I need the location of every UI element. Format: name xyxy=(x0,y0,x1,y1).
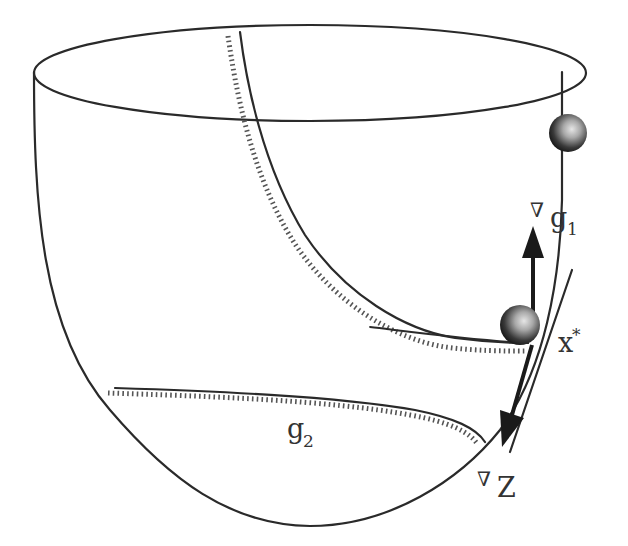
nabla-symbol: ∇ xyxy=(477,467,491,491)
ball-initial-position xyxy=(549,114,587,152)
nabla-symbol: ∇ xyxy=(530,198,544,222)
bowl-outline xyxy=(34,72,562,526)
label-x-star: x * xyxy=(558,325,581,358)
label-g2: g 2 xyxy=(287,413,314,451)
svg-text:*: * xyxy=(572,325,581,345)
gradient-g1-arrowhead-icon xyxy=(522,226,544,258)
label-grad-g1: ∇ g 1 xyxy=(530,198,578,239)
svg-text:g: g xyxy=(287,413,304,444)
svg-text:1: 1 xyxy=(567,219,578,239)
tangent-line-steep xyxy=(510,270,572,452)
constraint-g1-curve xyxy=(240,32,528,343)
ball-at-optimum xyxy=(500,305,540,345)
svg-text:x: x xyxy=(558,327,573,358)
constraint-g1-hatch xyxy=(228,36,525,351)
bowl-rim xyxy=(34,25,586,121)
optimization-bowl-diagram: ∇ g 1 x * ∇ Z g 2 xyxy=(0,0,628,546)
svg-text:2: 2 xyxy=(303,431,314,451)
gradient-z-arrowhead-icon xyxy=(500,410,524,447)
svg-text:Z: Z xyxy=(497,472,516,503)
label-grad-z: ∇ Z xyxy=(477,467,516,503)
svg-text:g: g xyxy=(550,202,567,233)
